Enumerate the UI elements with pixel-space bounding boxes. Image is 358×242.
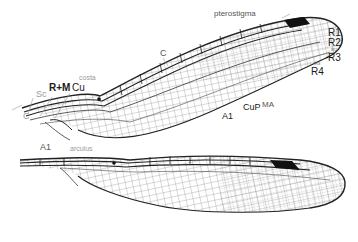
- label-costa: costa: [79, 74, 96, 81]
- label-cup: CuP: [243, 103, 261, 112]
- label-c-costa-vein: C: [160, 49, 167, 58]
- label-pterostigma: pterostigma: [214, 10, 256, 18]
- wing-venation-diagram: pterostigma C costa R+M Cu Sc C A1 arcul…: [0, 0, 358, 242]
- wings-illustration: [0, 0, 358, 242]
- label-sc: Sc: [36, 90, 47, 99]
- label-r-plus-m: R+M: [49, 83, 70, 93]
- label-cu: Cu: [72, 83, 85, 93]
- label-arculus: arculus: [70, 145, 93, 152]
- forewing: [0, 0, 358, 160]
- label-r3: R3: [328, 53, 341, 63]
- label-r4: R4: [311, 67, 324, 77]
- label-a1-mid: A1: [222, 112, 233, 121]
- label-a1-base: A1: [40, 143, 51, 152]
- hindwing: [0, 150, 358, 230]
- label-c-base: C: [23, 112, 30, 121]
- label-ma: MA: [262, 101, 274, 109]
